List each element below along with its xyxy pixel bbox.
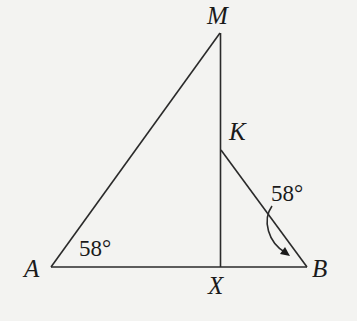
angle-a-label: 58° xyxy=(79,236,111,261)
angle-b-label: 58° xyxy=(271,181,303,206)
triangle-diagram: M K A B X 58° 58° xyxy=(0,0,357,321)
label-m: M xyxy=(206,2,229,29)
label-x: X xyxy=(207,272,225,299)
label-b: B xyxy=(312,255,327,282)
label-k: K xyxy=(228,118,247,145)
segment-kb xyxy=(221,150,307,267)
segment-am xyxy=(51,33,220,267)
angle-b-arrow-icon xyxy=(267,206,290,256)
label-a: A xyxy=(22,255,40,282)
